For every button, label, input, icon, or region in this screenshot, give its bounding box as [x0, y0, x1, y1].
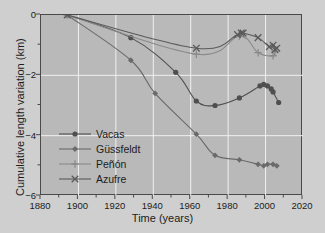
x-tick-label: 1920 — [104, 200, 125, 211]
legend-marker-circle-icon — [58, 127, 92, 141]
legend-label: Peñón — [96, 157, 126, 171]
x-tick-label: 2020 — [291, 200, 312, 211]
series-line — [67, 15, 277, 50]
x-tick-label: 1940 — [142, 200, 163, 211]
data-point-marker — [236, 157, 242, 163]
legend-item-vacas: Vacas — [58, 126, 140, 141]
data-point-marker — [255, 161, 261, 167]
legend-item-gssfeldt: Güssfeldt — [58, 141, 140, 156]
series-vacas — [65, 15, 282, 108]
y-axis-title: Cumulative length variation (km) — [14, 38, 26, 196]
series-azufre — [64, 15, 280, 53]
data-point-marker — [270, 89, 275, 94]
legend-item-azufre: Azufre — [58, 171, 140, 186]
legend-marker-diamond-icon — [58, 142, 92, 156]
legend-marker-plus-icon — [58, 157, 92, 171]
legend-label: Vacas — [96, 127, 124, 141]
data-point-marker — [276, 100, 281, 105]
y-tick-label: 0 — [16, 9, 36, 20]
chart-legend: VacasGüssfeldtPeñónAzufre — [58, 126, 140, 186]
x-tick-label: 1880 — [29, 200, 50, 211]
series-pen — [64, 15, 279, 59]
x-tick-label: 1980 — [217, 200, 238, 211]
data-point-marker — [237, 95, 242, 100]
data-point-marker — [212, 103, 217, 108]
series-line — [67, 15, 278, 106]
data-point-marker — [173, 70, 178, 75]
data-point-marker — [72, 131, 77, 136]
x-tick-label: 1960 — [179, 200, 200, 211]
legend-label: Güssfeldt — [96, 142, 140, 156]
legend-marker-x-icon — [58, 172, 92, 186]
data-point-marker — [269, 52, 276, 59]
x-tick-label: 2000 — [254, 200, 275, 211]
data-point-marker — [255, 34, 262, 41]
data-point-marker — [71, 160, 78, 167]
legend-label: Azufre — [96, 172, 126, 186]
figure: 188019001920194019601980200020200−2−4−6 … — [0, 0, 325, 233]
data-point-marker — [194, 98, 199, 103]
legend-item-pen: Peñón — [58, 156, 140, 171]
x-tick-label: 1900 — [67, 200, 88, 211]
data-point-marker — [72, 146, 78, 152]
x-axis-title: Time (years) — [0, 212, 325, 224]
